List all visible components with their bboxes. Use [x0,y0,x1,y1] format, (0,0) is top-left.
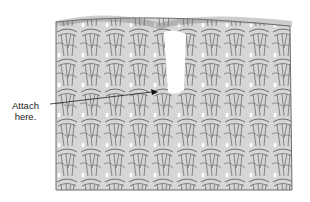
label-line-1: Attach [12,100,39,111]
label-line-2: here. [12,111,39,122]
crochet-diagram: Attach here. [0,0,310,202]
crochet-fabric-illustration [0,0,310,202]
attach-here-label: Attach here. [12,100,39,122]
